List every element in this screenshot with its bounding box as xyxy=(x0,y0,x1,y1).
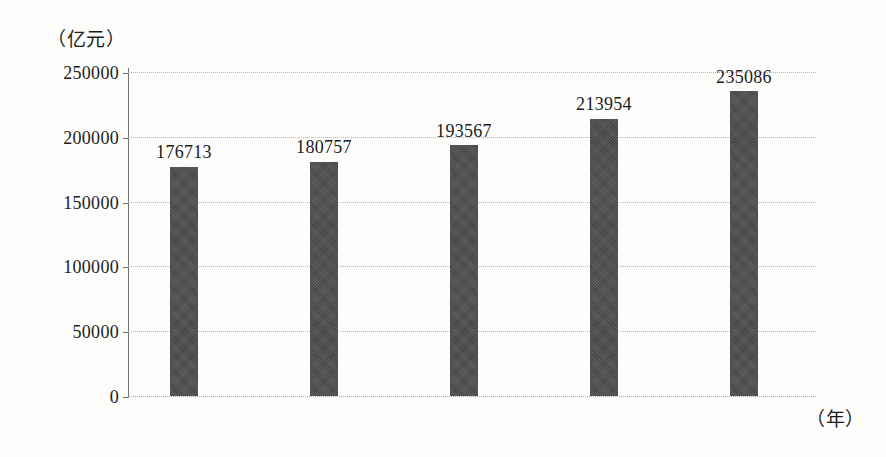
bar-2015[interactable] xyxy=(310,162,338,396)
bar-2014[interactable] xyxy=(170,167,198,396)
bar-value-2016: 193567 xyxy=(436,121,492,142)
bar-2016[interactable] xyxy=(450,145,478,396)
bar-value-2017: 213954 xyxy=(576,94,632,115)
gridline-0-baseline: 0 xyxy=(128,396,816,397)
y-tick-label-250000: 250000 xyxy=(63,63,119,84)
tick-mark-0 xyxy=(123,397,128,398)
y-tick-label-0: 0 xyxy=(110,387,119,408)
bar-value-2014: 176713 xyxy=(156,142,212,163)
bar-value-2015: 180757 xyxy=(296,137,352,158)
y-tick-label-150000: 150000 xyxy=(63,192,119,213)
y-axis-line xyxy=(128,68,129,398)
tick-mark-250000 xyxy=(123,73,128,74)
bar-2018[interactable] xyxy=(730,91,758,396)
tick-mark-100000 xyxy=(123,267,128,268)
y-tick-label-200000: 200000 xyxy=(63,127,119,148)
tick-mark-200000 xyxy=(123,138,128,139)
gridline-250000: 250000 xyxy=(128,72,816,73)
x-axis-unit-label: （年） xyxy=(806,404,865,431)
tick-mark-50000 xyxy=(123,332,128,333)
chart-page: （亿元） （年） 250000 200000 150000 100000 500… xyxy=(0,0,886,457)
y-tick-label-100000: 100000 xyxy=(63,257,119,278)
y-tick-label-50000: 50000 xyxy=(73,322,120,343)
plot-area: 250000 200000 150000 100000 50000 0 1767… xyxy=(128,72,816,396)
tick-mark-150000 xyxy=(123,203,128,204)
bar-2017[interactable] xyxy=(590,119,618,396)
y-axis-unit-label: （亿元） xyxy=(47,24,125,51)
bar-value-2018: 235086 xyxy=(716,67,772,88)
